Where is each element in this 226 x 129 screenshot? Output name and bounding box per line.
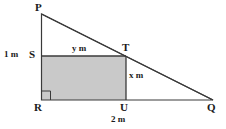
measure-label-RQ: 2 m: [111, 115, 125, 124]
vertex-label-P: P: [35, 2, 42, 13]
geometry-figure: P S T R U Q 1 m y m x m 2 m: [0, 0, 226, 129]
vertex-label-T: T: [122, 42, 129, 53]
measure-label-SR: 1 m: [4, 50, 18, 59]
vertex-label-S: S: [29, 49, 35, 60]
measure-label-TU: x m: [129, 71, 143, 80]
vertex-label-Q: Q: [207, 102, 216, 113]
measure-label-ST: y m: [72, 44, 86, 53]
shaded-rectangle-STUR: [42, 56, 127, 100]
vertex-label-R: R: [34, 102, 42, 113]
vertex-label-U: U: [120, 102, 128, 113]
